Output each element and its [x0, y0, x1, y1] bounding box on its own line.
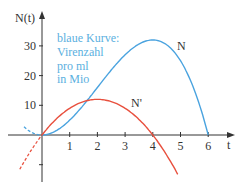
chart: 123456102030 N(t) t blaue Kurve: Virenza…	[0, 0, 245, 187]
y-axis-label: N(t)	[15, 11, 35, 25]
curve-n-prime-dashed-extension	[20, 135, 42, 169]
x-axis-label: t	[227, 138, 231, 152]
annotation-line-3: pro ml	[57, 59, 89, 73]
annotation-line-1: blaue Kurve:	[57, 31, 119, 45]
x-tick-label: 3	[122, 139, 128, 153]
curves	[20, 40, 208, 174]
series-label-n: N	[177, 39, 186, 53]
series-label-n-prime: N'	[131, 96, 142, 110]
y-axis-arrow-icon	[39, 11, 45, 19]
axis-ticks: 123456102030	[24, 39, 211, 165]
x-tick-label: 6	[205, 139, 211, 153]
annotation-line-4: in Mio	[57, 72, 89, 86]
curve-n-dashed-extension	[24, 127, 42, 135]
y-tick-label: 20	[24, 69, 36, 83]
curve-n-prime	[42, 99, 178, 174]
x-tick-label: 4	[150, 139, 156, 153]
x-tick-label: 5	[178, 139, 184, 153]
x-tick-label: 2	[94, 139, 100, 153]
annotation-line-2: Virenzahl	[57, 45, 104, 59]
y-tick-label: 30	[24, 39, 36, 53]
x-tick-label: 1	[67, 139, 73, 153]
axes	[8, 11, 235, 182]
y-tick-label: 10	[24, 98, 36, 112]
